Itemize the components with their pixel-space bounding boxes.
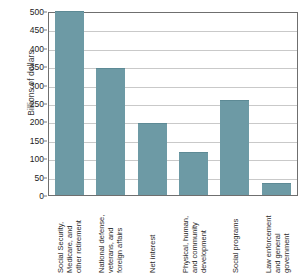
y-axis-tick-mark — [44, 122, 47, 123]
x-axis-category-label: Social Security,Medicare, andother retir… — [55, 220, 82, 273]
y-axis-tick-mark — [44, 85, 47, 86]
y-axis-tick-mark — [44, 159, 47, 160]
y-axis-tick-label: 250 — [30, 99, 44, 109]
y-axis-tick-label: 400 — [30, 44, 44, 54]
bar — [179, 152, 208, 195]
bar — [220, 100, 249, 195]
x-axis-category-label: Law enforcementand generalgovernment — [264, 215, 291, 273]
x-axis-label-slot: Net interest — [138, 197, 167, 273]
x-axis-label-line: and general — [273, 215, 282, 273]
x-axis-label-line: development — [198, 216, 207, 273]
y-axis-tick-mark — [44, 30, 47, 31]
y-axis-tick-label: 150 — [30, 136, 44, 146]
x-axis-label-line: other retirement — [73, 220, 82, 273]
x-axis-label-line: Physical, human, — [180, 216, 189, 273]
x-axis-label-line: Medicare, and — [64, 220, 73, 273]
y-axis-tick-mark — [44, 196, 47, 197]
y-axis-tick-label: 350 — [30, 62, 44, 72]
y-axis-tick-label: 50 — [35, 173, 44, 183]
x-axis-label-line: Social programs — [231, 219, 240, 273]
y-axis-tick-mark — [44, 12, 47, 13]
x-axis-category-label: Net interest — [148, 235, 157, 273]
x-axis-label-line: and community — [189, 216, 198, 273]
x-axis-category-label: Social programs — [231, 219, 240, 273]
y-axis-tick-label: 300 — [30, 81, 44, 91]
y-axis-tick-mark — [44, 104, 47, 105]
x-axis-label-slot: Physical, human,and communitydevelopment — [179, 197, 208, 273]
x-axis-label-slot: National defense,veterans, andforeign af… — [96, 197, 125, 273]
bar-series — [49, 13, 297, 195]
x-axis-category-label: Physical, human,and communitydevelopment — [180, 216, 207, 273]
y-axis-tick-label: 450 — [30, 25, 44, 35]
x-axis-label-slot: Social programs — [221, 197, 250, 273]
x-axis-category-label: National defense,veterans, andforeign af… — [97, 215, 124, 273]
y-axis-tick-mark — [44, 67, 47, 68]
bar — [96, 68, 125, 195]
bar — [55, 11, 84, 195]
bar — [262, 183, 291, 195]
y-axis-tick-mark — [44, 48, 47, 49]
y-axis-tick-labels: 050100150200250300350400450500 — [14, 12, 44, 196]
y-axis-tick-label: 200 — [30, 117, 44, 127]
x-axis-label-slot: Social Security,Medicare, andother retir… — [54, 197, 83, 273]
y-axis-tick-mark — [44, 140, 47, 141]
y-axis-tick-mark — [44, 177, 47, 178]
x-axis-label-line: government — [282, 215, 291, 273]
x-axis-label-line: foreign affairs — [115, 215, 124, 273]
y-axis-tick-label: 100 — [30, 154, 44, 164]
bar-chart: Billions of dollars 05010015020025030035… — [0, 0, 307, 273]
x-axis-label-slot: Law enforcementand generalgovernment — [263, 197, 292, 273]
y-axis-tick-label: 500 — [30, 7, 44, 17]
x-axis-category-labels: Social Security,Medicare, andother retir… — [48, 197, 298, 273]
x-axis-label-line: Social Security, — [55, 220, 64, 273]
x-axis-label-line: Net interest — [148, 235, 157, 273]
plot-area — [48, 12, 298, 196]
x-axis-label-line: Law enforcement — [264, 215, 273, 273]
bar — [138, 123, 167, 195]
